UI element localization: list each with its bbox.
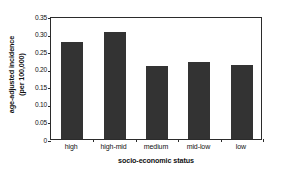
y-axis-tick-mark [48, 71, 51, 72]
y-axis-tick-mark [48, 106, 51, 107]
x-axis-tick-label: high-mid [92, 142, 134, 151]
x-axis-tick-label: high [50, 142, 92, 151]
bar [231, 65, 253, 139]
x-axis-tick-label: low [220, 142, 262, 151]
y-axis-tick-mark [48, 18, 51, 19]
bar [146, 66, 168, 139]
y-axis-title-line1: age-adjusted incidence [8, 35, 18, 112]
y-axis-tick-label: 0.05 [26, 119, 47, 126]
y-axis-tick-label: 0.20 [26, 66, 47, 73]
plot-inner [51, 18, 261, 139]
x-axis-tick-labels: highhigh-midmediummid-lowlow [50, 142, 262, 154]
x-axis-tick-mark [263, 139, 264, 142]
y-axis-tick-labels: 00.050.100.150.200.250.300.35 [26, 12, 47, 145]
bar-chart-figure: age-adjusted incidence (per 100,000) 00.… [0, 0, 287, 178]
bar [188, 62, 210, 139]
y-axis-tick-label: 0.25 [26, 49, 47, 56]
y-axis-tick-mark [48, 36, 51, 37]
bar [104, 32, 126, 139]
x-axis-title: socio-economic status [50, 156, 262, 165]
y-axis-tick-label: 0.35 [26, 14, 47, 21]
y-axis-tick-label: 0.15 [26, 84, 47, 91]
y-axis-tick-mark [48, 88, 51, 89]
bar [61, 42, 83, 139]
x-axis-tick-label: medium [135, 142, 177, 151]
y-axis-tick-mark [48, 123, 51, 124]
plot-area [50, 17, 262, 140]
y-axis-tick-label: 0.10 [26, 101, 47, 108]
y-axis-tick-mark [48, 53, 51, 54]
bars-layer [51, 18, 261, 139]
y-axis-tick-label: 0.30 [26, 31, 47, 38]
x-axis-tick-label: mid-low [177, 142, 219, 151]
y-axis-tick-label: 0 [26, 137, 47, 144]
